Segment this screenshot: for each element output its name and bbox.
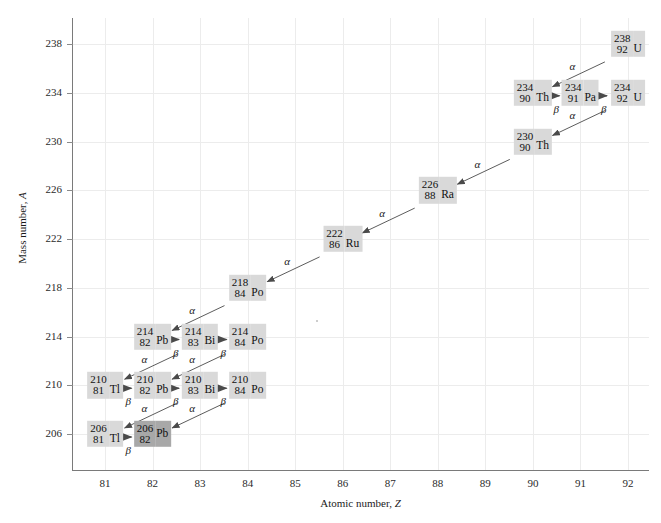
nuclide-label: 20681Tl <box>87 421 123 447</box>
gridline-horizontal <box>72 142 649 143</box>
element-symbol: Pa <box>583 80 599 106</box>
nuclide-label: 20682Pb <box>134 421 172 447</box>
x-tick-label: 86 <box>323 477 363 489</box>
nuclide-number-box: 21082 <box>134 372 156 398</box>
alpha-label: α <box>379 207 385 219</box>
nuclide-number-box: 21081 <box>87 372 109 398</box>
atomic-number: 81 <box>93 385 104 396</box>
element-symbol: U <box>633 80 645 106</box>
y-tick-label: 206 <box>22 427 62 439</box>
x-tick-label: 87 <box>370 477 410 489</box>
atomic-number: 82 <box>139 385 150 396</box>
nuclide-number-box: 21483 <box>182 323 204 349</box>
y-axis-title: Mass number, A <box>16 168 28 288</box>
x-tick-label: 84 <box>228 477 268 489</box>
element-symbol: Tl <box>109 421 123 447</box>
atomic-number: 86 <box>329 239 340 250</box>
nuclide-number-box: 23490 <box>514 80 536 106</box>
alpha-label: α <box>189 402 195 414</box>
y-tick-mark <box>67 142 73 143</box>
nuclide-label: 21482Pb <box>134 323 172 349</box>
y-tick-mark <box>67 385 73 386</box>
nuclide-label: 22688Ra <box>419 177 457 203</box>
x-tick-label: 91 <box>560 477 600 489</box>
y-tick-mark <box>67 44 73 45</box>
beta-label: β <box>553 103 558 115</box>
nuclide-label: 23490Th <box>514 80 552 106</box>
element-symbol: Th <box>535 128 552 154</box>
nuclide-label: 23090Th <box>514 128 552 154</box>
beta-label: β <box>173 395 178 407</box>
x-axis-line <box>72 470 649 471</box>
alpha-label: α <box>142 402 148 414</box>
beta-label: β <box>221 347 226 359</box>
nuclide-label: 21484Po <box>229 323 267 349</box>
element-symbol: Po <box>250 323 266 349</box>
element-symbol: Bi <box>203 323 218 349</box>
atomic-number: 82 <box>139 434 150 445</box>
x-axis-title: Atomic number, Z <box>72 497 649 509</box>
element-symbol: U <box>633 31 645 57</box>
speck-artifact <box>316 320 318 322</box>
y-tick-label: 230 <box>22 135 62 147</box>
nuclide-number-box: 20682 <box>134 421 156 447</box>
element-symbol: Po <box>250 275 266 301</box>
element-symbol: Ru <box>345 226 362 252</box>
atomic-number: 81 <box>93 434 104 445</box>
atomic-number: 83 <box>188 385 199 396</box>
nuclide-label: 22286Ru <box>323 226 362 252</box>
nuclide-number-box: 21884 <box>229 275 251 301</box>
nuclide-number-box: 20681 <box>87 421 109 447</box>
atomic-number: 91 <box>568 93 579 104</box>
y-axis-line <box>72 18 73 470</box>
y-tick-mark <box>67 288 73 289</box>
atomic-number: 84 <box>235 337 246 348</box>
nuclide-number-box: 22688 <box>419 177 441 203</box>
gridline-vertical <box>485 18 486 470</box>
x-tick-label: 92 <box>608 477 648 489</box>
y-tick-label: 226 <box>22 183 62 195</box>
nuclide-number-box: 22286 <box>323 226 345 252</box>
gridline-vertical <box>248 18 249 470</box>
element-symbol: Bi <box>203 372 218 398</box>
atomic-number: 88 <box>424 190 435 201</box>
element-symbol: Po <box>250 372 266 398</box>
gridline-vertical <box>438 18 439 470</box>
atomic-number: 84 <box>235 385 246 396</box>
nuclide-label: 21081Tl <box>87 372 123 398</box>
atomic-number: 90 <box>520 142 531 153</box>
x-tick-label: 89 <box>465 477 505 489</box>
y-tick-mark <box>67 239 73 240</box>
y-tick-label: 210 <box>22 378 62 390</box>
y-tick-label: 234 <box>22 86 62 98</box>
nuclide-label: 23491Pa <box>562 80 599 106</box>
x-tick-label: 83 <box>180 477 220 489</box>
y-tick-label: 218 <box>22 281 62 293</box>
beta-label: β <box>601 103 606 115</box>
nuclide-label: 21083Bi <box>182 372 218 398</box>
y-tick-label: 214 <box>22 330 62 342</box>
y-tick-label: 238 <box>22 37 62 49</box>
beta-label: β <box>221 395 226 407</box>
gridline-vertical <box>153 18 154 470</box>
x-tick-label: 85 <box>275 477 315 489</box>
nuclide-label: 21483Bi <box>182 323 218 349</box>
x-tick-label: 90 <box>513 477 553 489</box>
x-tick-label: 81 <box>85 477 125 489</box>
decay-chain-chart: 206210214218222226230234238 818283848586… <box>0 0 661 523</box>
gridline-horizontal <box>72 44 649 45</box>
nuclide-number-box: 23492 <box>611 80 633 106</box>
gridline-vertical <box>390 18 391 470</box>
beta-label: β <box>173 347 178 359</box>
y-tick-label: 222 <box>22 232 62 244</box>
atomic-number: 92 <box>617 93 628 104</box>
gridline-horizontal <box>72 288 649 289</box>
atomic-number: 84 <box>235 288 246 299</box>
y-tick-mark <box>67 93 73 94</box>
y-tick-mark <box>67 434 73 435</box>
nuclide-number-box: 23892 <box>611 31 633 57</box>
nuclide-number-box: 21482 <box>134 323 156 349</box>
element-symbol: Th <box>535 80 552 106</box>
alpha-label: α <box>189 353 195 365</box>
beta-label: β <box>126 444 131 456</box>
